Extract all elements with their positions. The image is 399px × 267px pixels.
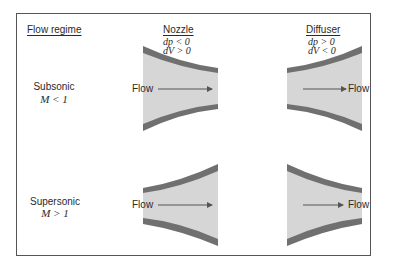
supersonic-nozzle bbox=[143, 164, 218, 246]
flow-label-supersonic-nozzle: Flow bbox=[132, 199, 153, 210]
flow-label-supersonic-diffuser: Flow bbox=[348, 199, 369, 210]
subsonic-nozzle bbox=[143, 46, 218, 131]
flow-label-subsonic-diffuser: Flow bbox=[348, 83, 369, 94]
duct-diagrams bbox=[0, 0, 399, 267]
flow-label-subsonic-nozzle: Flow bbox=[132, 83, 153, 94]
